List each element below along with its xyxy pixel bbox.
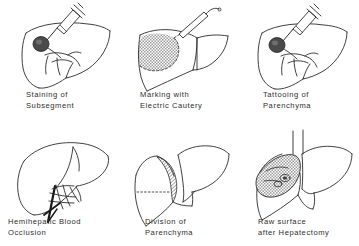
tattoo-highlight bbox=[272, 41, 278, 46]
panel-caption-division-of-parenchyma: Division of Parenchyma bbox=[120, 216, 240, 238]
hatched-transection-plane bbox=[157, 157, 177, 202]
tattoo-mark bbox=[269, 38, 285, 53]
panel-division-of-parenchyma: Division of Parenchyma bbox=[120, 123, 240, 246]
hepatectomy-figure-sheet: Staining of Subsegment bbox=[0, 0, 359, 246]
panel-caption-marking-with-electric-cautery: Marking with Electric Cautery bbox=[120, 89, 240, 111]
nodule-highlight bbox=[36, 40, 42, 45]
panel-caption-staining-of-subsegment: Staining of Subsegment bbox=[0, 89, 120, 111]
syringe-icon bbox=[283, 4, 321, 41]
panel-caption-raw-surface-after-hepatectomy: Raw surface after Hepatectomy bbox=[240, 216, 359, 238]
panel-caption-tattooing-of-parenchyma: Tattooing of Parenchyma bbox=[240, 89, 359, 111]
panel-grid: Staining of Subsegment bbox=[0, 0, 359, 246]
panel-raw-surface-after-hepatectomy: Raw surface after Hepatectomy bbox=[240, 123, 359, 246]
panel-marking-with-electric-cautery: Marking with Electric Cautery bbox=[120, 0, 240, 123]
panel-staining-of-subsegment: Staining of Subsegment bbox=[0, 0, 120, 123]
electric-cautery-icon bbox=[179, 8, 221, 38]
stained-nodule bbox=[33, 37, 49, 52]
panel-caption-hemihepatic-blood-occlusion: Hemihepatic Blood Occlusion bbox=[0, 216, 120, 238]
syringe-icon bbox=[47, 3, 85, 40]
raw-cut-surface bbox=[256, 155, 300, 198]
panel-tattooing-of-parenchyma: Tattooing of Parenchyma bbox=[240, 0, 359, 123]
stippled-marking-area bbox=[138, 34, 179, 71]
panel-hemihepatic-blood-occlusion: Hemihepatic Blood Occlusion bbox=[0, 123, 120, 246]
